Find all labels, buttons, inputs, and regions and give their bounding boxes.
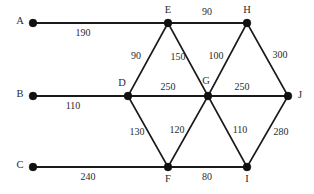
network-diagram: 1909090150100300110250250130120110280240… (0, 0, 314, 194)
edge-weight-a-e: 190 (76, 27, 91, 38)
edge-weights-layer: 1909090150100300110250250130120110280240… (66, 6, 289, 182)
node-i (243, 163, 251, 171)
node-label-d: D (118, 77, 126, 88)
node-label-h: H (243, 4, 251, 15)
edge-weight-h-j: 300 (273, 49, 288, 60)
node-label-b: B (16, 88, 23, 99)
edge-weight-g-j: 250 (235, 81, 250, 92)
node-d (124, 92, 132, 100)
edge-weight-c-f: 240 (81, 171, 96, 182)
edge-weight-f-g: 120 (170, 124, 185, 135)
node-label-i: I (245, 173, 249, 184)
edge-weight-b-d: 110 (66, 100, 81, 111)
node-label-c: C (16, 159, 23, 170)
graph-canvas: 1909090150100300110250250130120110280240… (0, 0, 314, 194)
node-e (164, 19, 172, 27)
node-label-j: J (298, 89, 302, 100)
edge-weight-e-h: 90 (202, 6, 212, 17)
node-j (284, 92, 292, 100)
node-label-f: F (165, 173, 171, 184)
node-a (29, 19, 37, 27)
edge-weight-f-i: 80 (202, 171, 212, 182)
edges-layer (33, 23, 288, 167)
edge-weight-d-e: 90 (131, 50, 141, 61)
node-f (164, 163, 172, 171)
node-b (29, 92, 37, 100)
node-label-e: E (165, 4, 171, 15)
edge-weight-d-f: 130 (130, 126, 145, 137)
edge-weight-e-g: 150 (171, 51, 186, 62)
edge-weight-g-h: 100 (209, 50, 224, 61)
edge-weight-g-i: 110 (233, 124, 248, 135)
node-label-g: G (202, 75, 210, 86)
edge-weight-i-j: 280 (274, 126, 289, 137)
node-labels-layer: AEHBDGJCFI (16, 4, 302, 184)
edge-weight-d-g: 250 (161, 81, 176, 92)
node-g (204, 92, 212, 100)
node-label-a: A (16, 15, 24, 26)
node-c (29, 163, 37, 171)
node-h (243, 19, 251, 27)
